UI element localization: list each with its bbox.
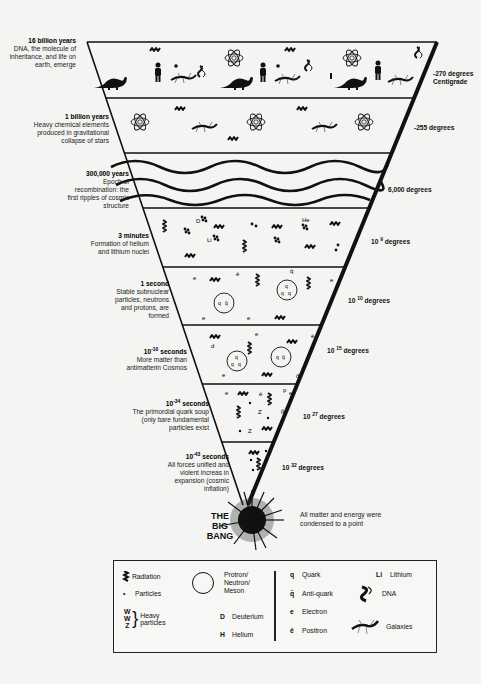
era-time-7: 10-34 seconds (129, 397, 209, 408)
svg-text:ē: ē (259, 391, 263, 397)
legend-galaxies: Galaxies (350, 609, 412, 637)
legend-deuterium: DDeuterium (220, 613, 263, 621)
svg-text:q: q (285, 283, 288, 289)
legend-electron: eElectron (290, 608, 327, 616)
svg-text:Z: Z (248, 428, 252, 434)
svg-text:q̄: q̄ (282, 354, 285, 360)
svg-text:q: q (238, 361, 241, 367)
svg-text:q: q (288, 290, 291, 296)
svg-text:Li: Li (207, 237, 212, 243)
temp-label-4: 10 9 degrees (371, 235, 410, 246)
band-antimatter: d e ē qqq qq̄ e d̄ (210, 331, 315, 379)
era-time-6: 10-10 seconds (107, 345, 187, 356)
band-quark-soup: e ē p e Z p̄ Z (225, 387, 293, 437)
era-label-1: 16 billion years DNA, the molecule of in… (0, 37, 76, 69)
svg-text:p: p (283, 387, 287, 393)
svg-text:e: e (222, 372, 226, 378)
svg-text:Z: Z (258, 409, 262, 415)
era-desc-6: More matter than antimatterin Cosmos (127, 356, 187, 371)
svg-text:q: q (235, 354, 238, 360)
era-desc-2: Heavy chemical elements produced in grav… (34, 121, 109, 144)
legend-heavy-particles: WWZ } Heavyparticles (124, 608, 166, 629)
dna-icon (354, 585, 376, 603)
svg-text:q̄: q̄ (290, 268, 293, 274)
era-label-4: 3 minutes Formation of helium and lithiu… (79, 232, 149, 256)
temp-label-6: 10 15 degrees (327, 344, 369, 355)
svg-text:e: e (202, 315, 206, 321)
era-desc-5: Stable subnuclear particles, neutrons an… (115, 288, 169, 319)
legend-radiation: Radiation (122, 571, 161, 583)
legend-box: Radiation •Particles WWZ } Heavyparticle… (113, 560, 437, 653)
band-stars (131, 107, 373, 140)
era-desc-8: All forces unified and violent increas i… (168, 461, 229, 492)
svg-text:ē: ē (236, 271, 240, 277)
temp-label-3: 6,000 degrees (388, 186, 432, 194)
svg-text:d: d (211, 343, 214, 349)
temp-label-8: 10 32 degrees (282, 461, 324, 472)
circle-icon (192, 572, 214, 594)
era-label-5: 1 second Stable subnuclear particles, ne… (109, 280, 169, 320)
era-time-8: 10-43 seconds (149, 450, 229, 461)
band-ripples (111, 161, 388, 205)
svg-text:e: e (193, 275, 197, 281)
legend-quark: qQuark (290, 571, 321, 579)
legend-protron: Protron/Neutron/Meson (192, 571, 250, 595)
era-label-2: 1 billion years Heavy chemical elements … (31, 113, 109, 145)
legend-positron: ēPositron (290, 627, 327, 635)
legend-helium: HHelium (220, 631, 253, 639)
legend-dna: DNA (354, 585, 396, 603)
big-bang-title: THE BIG BANG (200, 511, 240, 541)
era-label-3: 300,000 years Epoch of recombination: th… (65, 170, 129, 210)
era-desc-3: Epoch of recombination: the first ripple… (67, 178, 129, 209)
temp-label-1: -270 degreesCentigrade (433, 70, 473, 86)
big-bang-description: All matter and energy were condensed to … (300, 510, 400, 528)
svg-text:q: q (231, 361, 234, 367)
svg-text:d̄: d̄ (296, 373, 299, 379)
era-time-1: 16 billion years (0, 37, 76, 45)
era-label-6: 10-10 seconds More matter than antimatte… (107, 345, 187, 372)
era-desc-4: Formation of helium and lithium nuclei (91, 240, 149, 255)
galaxy-icon (350, 617, 380, 637)
brace-icon: } (132, 608, 138, 628)
svg-text:e: e (330, 277, 334, 283)
svg-text:q: q (281, 290, 284, 296)
cosmic-timeline-diagram: D He Li e ē q̄ e qqq (0, 0, 481, 684)
era-desc-1: DNA, the molecule of inheritance, and li… (10, 45, 76, 68)
svg-text:e: e (225, 390, 229, 396)
era-label-7: 10-34 seconds The primordial quark soup … (129, 397, 209, 432)
band-nuclei: D He Li (163, 216, 340, 257)
svg-text:q: q (276, 354, 279, 360)
temp-label-5: 10 10 degrees (348, 294, 390, 305)
svg-text:He: He (302, 217, 310, 223)
band-subnuclear: e ē q̄ e qqq qq̄ e e (193, 268, 334, 321)
svg-text:e: e (255, 331, 259, 337)
svg-text:q̄: q̄ (225, 300, 228, 306)
era-desc-7: The primordial quark soup (only bare fun… (132, 408, 209, 431)
era-label-8: 10-43 seconds All forces unified and vio… (149, 450, 229, 493)
svg-text:q: q (218, 300, 221, 306)
legend-particles: •Particles (123, 590, 161, 598)
legend-lithium: LiLithium (376, 571, 412, 579)
legend-anti-quark: q̄Anti-quark (290, 590, 333, 598)
legend-divider (274, 571, 276, 641)
era-time-4: 3 minutes (79, 232, 149, 240)
era-time-2: 1 billion years (31, 113, 109, 121)
particle-dot-icon: • (123, 590, 135, 598)
era-time-5: 1 second (109, 280, 169, 288)
band-life (94, 47, 422, 90)
svg-text:e: e (247, 315, 251, 321)
era-time-3: 300,000 years (65, 170, 129, 178)
temp-label-2: -255 degrees (414, 124, 454, 132)
svg-text:D: D (196, 218, 201, 224)
radiation-icon (122, 571, 130, 583)
temp-label-7: 10 27 degrees (303, 410, 345, 421)
